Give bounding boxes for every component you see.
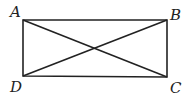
rectangle-diagram: A B C D bbox=[0, 0, 185, 98]
vertex-label-d: D bbox=[9, 78, 22, 96]
vertex-label-c: C bbox=[170, 79, 182, 97]
vertex-label-a: A bbox=[8, 3, 21, 21]
vertex-label-b: B bbox=[169, 6, 181, 24]
